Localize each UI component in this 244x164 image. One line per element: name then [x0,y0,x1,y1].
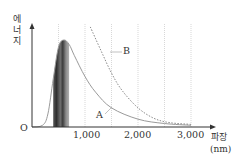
x-tick-2000: 2,000 [124,129,151,140]
y-label-char-1: 에 [11,14,23,25]
y-label-char-2: 너 [11,25,23,36]
y-axis-label: 에 너 지 [11,14,23,47]
curve-b [90,27,191,124]
curve-a-label: A [96,109,103,120]
x-tick-1000: 1,000 [73,129,100,140]
grid-lines [59,24,192,127]
x-tick-3000: 3,000 [177,129,204,140]
origin-label: O [20,122,28,133]
curve-b-label: B [123,45,130,56]
visible-spectrum-band [53,20,69,127]
chart-canvas [0,0,244,164]
x-axis-arrow-icon [210,125,216,130]
y-label-char-3: 지 [11,36,23,47]
label-a-leader [105,107,112,114]
spectrum-band-fill [53,20,69,127]
x-axis-label: 파장 [211,130,227,143]
y-axis-arrow-icon [30,23,35,29]
x-axis-unit: (nm) [210,144,231,154]
